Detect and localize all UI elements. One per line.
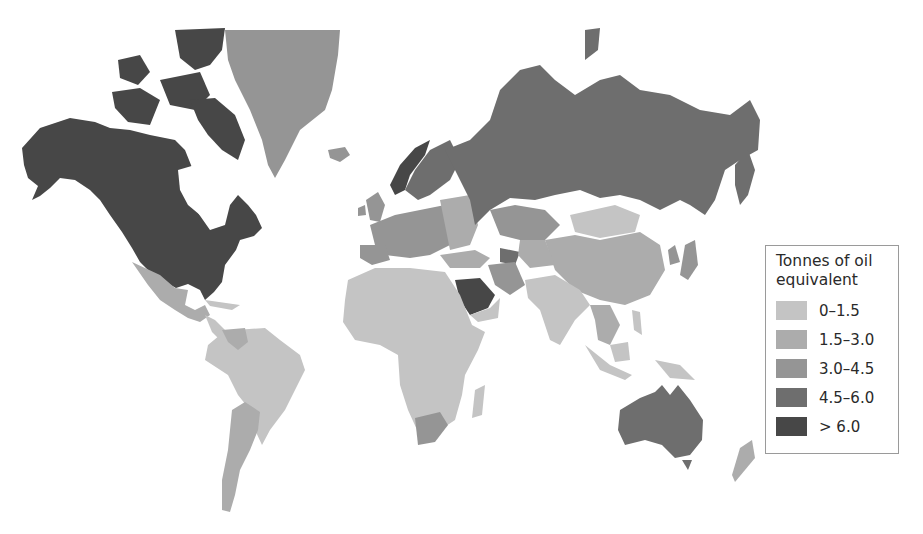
legend-item-4: > 6.0 — [776, 412, 892, 441]
region-baffin-island — [190, 98, 245, 160]
legend-title-line1: Tonnes of oil — [776, 252, 892, 271]
legend-swatch — [776, 301, 807, 320]
legend-swatch — [776, 359, 807, 378]
legend-title: Tonnes of oil equivalent — [776, 252, 892, 290]
legend-item-2: 3.0–4.5 — [776, 354, 892, 383]
region-australia — [618, 385, 703, 458]
region-korea-japan — [668, 245, 680, 265]
region-borneo — [610, 342, 630, 362]
legend-title-line2: equivalent — [776, 271, 892, 290]
legend-label: 1.5–3.0 — [819, 331, 874, 349]
region-new-guinea — [655, 360, 695, 380]
legend-label: 0–1.5 — [819, 302, 860, 320]
region-arctic-islands-3 — [112, 88, 160, 125]
region-madagascar — [472, 385, 485, 418]
region-arctic-islands-1 — [175, 28, 225, 70]
region-kazakhstan — [490, 205, 560, 240]
legend-item-3: 4.5–6.0 — [776, 383, 892, 412]
legend-swatch — [776, 417, 807, 436]
region-russia — [445, 65, 760, 225]
region-mongolia — [570, 205, 640, 238]
region-japan — [680, 240, 698, 280]
region-iberia — [360, 245, 390, 265]
map-legend: Tonnes of oil equivalent 0–1.5 1.5–3.0 3… — [765, 245, 899, 454]
region-philippines — [632, 310, 642, 335]
legend-label: 4.5–6.0 — [819, 389, 874, 407]
region-novaya-zemlya — [585, 28, 600, 60]
region-new-zealand — [732, 440, 755, 482]
legend-label: > 6.0 — [819, 418, 860, 436]
region-iceland — [328, 147, 350, 162]
region-tasmania — [682, 460, 692, 470]
region-turkey — [440, 250, 490, 268]
region-ireland — [358, 205, 366, 216]
north-america — [22, 28, 262, 300]
region-arctic-islands-2 — [118, 55, 150, 85]
legend-item-1: 1.5–3.0 — [776, 325, 892, 354]
region-caribbean — [205, 300, 240, 310]
legend-item-0: 0–1.5 — [776, 296, 892, 325]
legend-swatch — [776, 330, 807, 349]
region-southeast-asia — [590, 305, 620, 345]
legend-label: 3.0–4.5 — [819, 360, 874, 378]
region-turkmenistan — [500, 248, 520, 265]
region-argentina — [222, 402, 260, 512]
region-uk — [366, 192, 385, 222]
region-iran — [488, 262, 525, 295]
legend-swatch — [776, 388, 807, 407]
region-greenland — [225, 30, 340, 178]
